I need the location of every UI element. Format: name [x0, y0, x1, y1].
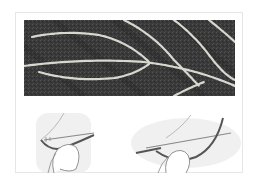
figure-card — [15, 12, 243, 173]
embroidery-photo — [24, 20, 235, 96]
needle-illustration-left — [36, 113, 116, 173]
needle-illustration-right — [126, 113, 241, 173]
stitch-pattern-image — [24, 20, 235, 96]
